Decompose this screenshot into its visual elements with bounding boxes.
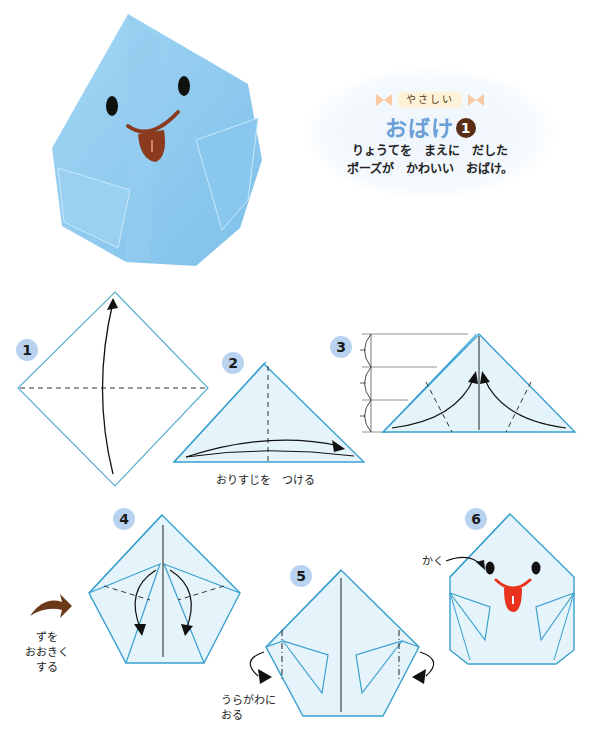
step-6-diagram bbox=[0, 0, 589, 732]
step-6-caption: かく bbox=[422, 554, 444, 569]
